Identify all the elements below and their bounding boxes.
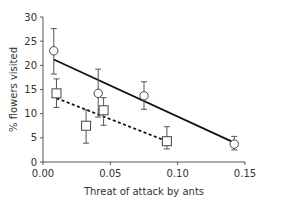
data-point-square — [99, 106, 108, 115]
data-point-circle — [230, 140, 238, 148]
y-tick-label: 30 — [24, 12, 37, 23]
y-tick-label: 0 — [31, 157, 37, 168]
y-tick-label: 25 — [24, 36, 37, 47]
y-tick-label: 10 — [24, 108, 37, 119]
x-tick-label: 0.10 — [167, 168, 189, 179]
data-point-square — [162, 137, 171, 146]
y-tick-label: 20 — [24, 60, 37, 71]
y-axis-label: % flowers visited — [8, 47, 19, 132]
x-tick-label: 0.15 — [234, 168, 256, 179]
data-point-circle — [140, 92, 148, 100]
data-point-circle — [50, 47, 58, 55]
x-tick-label: 0.00 — [32, 168, 54, 179]
data-point-square — [82, 121, 91, 130]
y-tick-label: 5 — [31, 132, 37, 143]
data-point-square — [52, 89, 61, 98]
data-point-circle — [94, 89, 102, 97]
x-axis-label: Threat of attack by ants — [83, 186, 204, 197]
chart: 0510152025300.000.050.100.15Threat of at… — [0, 0, 295, 207]
x-tick-label: 0.05 — [99, 168, 121, 179]
y-tick-label: 15 — [24, 84, 37, 95]
